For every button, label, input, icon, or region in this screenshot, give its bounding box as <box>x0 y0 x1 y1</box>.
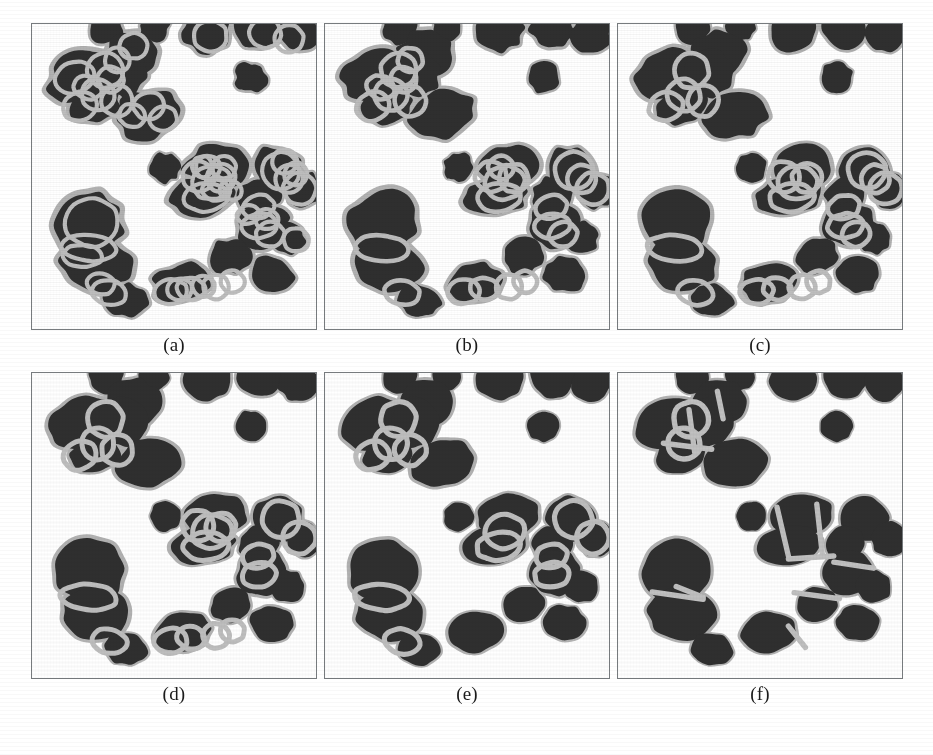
panel-caption-c: (c) <box>617 334 903 356</box>
panel-image-d <box>31 372 317 679</box>
panel-a <box>31 23 317 370</box>
cell-canvas-a <box>32 24 316 329</box>
panel-caption-a: (a) <box>31 334 317 356</box>
panel-image-a <box>31 23 317 330</box>
panel-d <box>31 372 317 719</box>
cell-canvas-e <box>325 373 609 678</box>
cell-canvas-b <box>325 24 609 329</box>
panel-caption-f: (f) <box>617 683 903 705</box>
cell-canvas-c <box>618 24 902 329</box>
segmentation-figure: (a)(b)(c)(d)(e)(f) <box>0 0 933 755</box>
panel-image-b <box>324 23 610 330</box>
panel-b <box>324 23 610 370</box>
panel-image-f <box>617 372 903 679</box>
panel-c <box>617 23 903 370</box>
panel-image-e <box>324 372 610 679</box>
panel-caption-b: (b) <box>324 334 610 356</box>
panel-e <box>324 372 610 719</box>
panel-caption-d: (d) <box>31 683 317 705</box>
cell-canvas-f <box>618 373 902 678</box>
panel-caption-e: (e) <box>324 683 610 705</box>
cell-body <box>252 255 295 292</box>
panel-f <box>617 372 903 719</box>
cell-canvas-d <box>32 373 316 678</box>
panel-image-c <box>617 23 903 330</box>
cell-body <box>736 153 766 183</box>
cell-boundary-line <box>788 556 833 559</box>
